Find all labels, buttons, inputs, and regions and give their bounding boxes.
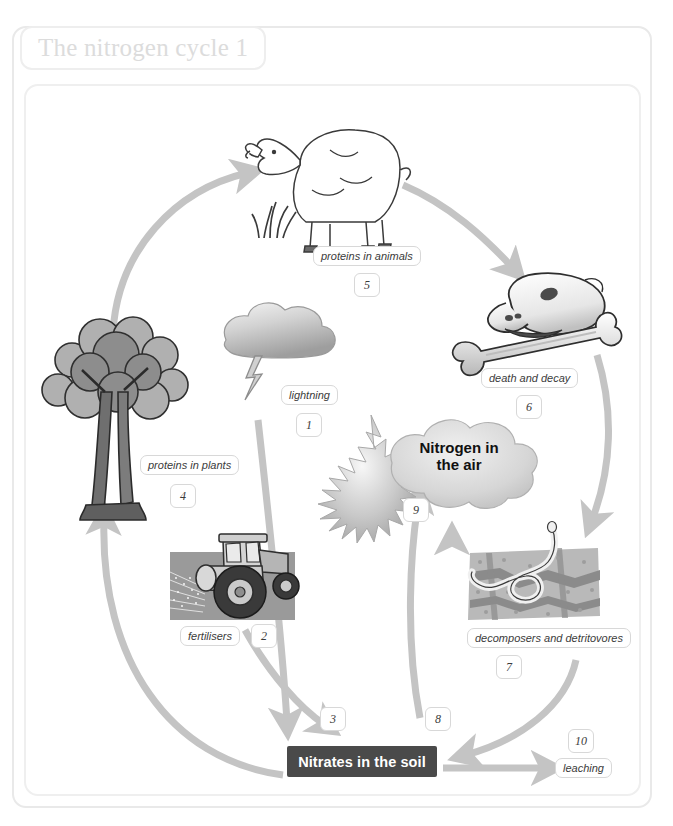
number-10: 10 [568, 729, 594, 753]
number-8: 8 [425, 707, 451, 731]
page-title-tab: The nitrogen cycle 1 [20, 26, 266, 70]
number-7: 7 [496, 655, 522, 679]
label-proteins-in-animals: proteins in animals [313, 246, 421, 266]
number-4: 4 [170, 484, 196, 508]
nitrogen-in-the-air-label: Nitrogen in the air [404, 439, 514, 474]
label-proteins-in-plants: proteins in plants [140, 455, 239, 475]
arrow-plants-to-animals [113, 173, 247, 332]
diagram-canvas [0, 0, 673, 826]
number-5: 5 [354, 273, 380, 297]
tree-icon [42, 317, 188, 520]
arrow-nitrates-to-air [410, 498, 420, 718]
number-9: 9 [403, 498, 429, 522]
number-1: 1 [296, 413, 322, 437]
nitrogen-cycle-page: The nitrogen cycle 1 [0, 0, 673, 826]
number-6: 6 [516, 395, 542, 419]
label-fertilisers: fertilisers [180, 626, 240, 646]
number-2: 2 [251, 624, 277, 648]
soil-worm-icon [468, 522, 600, 621]
arrow-denitrification [452, 540, 462, 725]
air-line-2: the air [404, 456, 514, 473]
label-lightning: lightning [281, 385, 338, 405]
page-title: The nitrogen cycle 1 [38, 34, 248, 62]
grass-icon [252, 202, 296, 238]
arrow-death-to-decomposers [592, 355, 608, 520]
label-decomposers-and-detritovores: decomposers and detritovores [467, 628, 631, 648]
air-line-1: Nitrogen in [404, 439, 514, 456]
label-death-and-decay: death and decay [481, 368, 578, 388]
nitrates-in-the-soil-box: Nitrates in the soil [287, 746, 437, 777]
nitrates-label: Nitrates in the soil [298, 754, 426, 770]
label-leaching: leaching [555, 758, 612, 778]
cloud-burst-icon [318, 415, 537, 543]
tractor-icon [170, 534, 299, 620]
number-3: 3 [320, 707, 346, 731]
